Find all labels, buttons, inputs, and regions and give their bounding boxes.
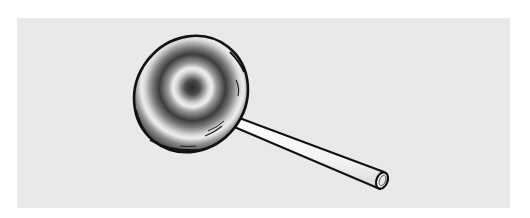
lollipop-illustration	[0, 0, 530, 218]
illustration-canvas	[0, 0, 530, 218]
lollipop-candy	[111, 13, 272, 175]
lollipop-stick	[232, 116, 390, 190]
